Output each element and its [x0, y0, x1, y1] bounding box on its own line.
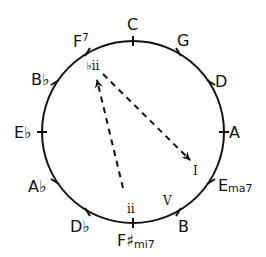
note-a: A: [229, 123, 240, 142]
circle-of-fifths-diagram: C G D A Ema7 B F♯mi7 D♭ A♭ E♭ B♭ F7 ♭ii …: [0, 0, 266, 257]
note-f-sharp-mi7: F♯mi7: [117, 231, 155, 251]
note-a-flat: A♭: [28, 177, 47, 196]
note-c: C: [127, 15, 138, 34]
roman-five: V: [162, 194, 172, 208]
note-f7: F7: [73, 32, 89, 51]
note-d-flat: D♭: [70, 217, 90, 236]
note-d: D: [215, 72, 227, 91]
note-g: G: [177, 31, 189, 50]
tick-marks: [37, 36, 229, 228]
circle: [42, 41, 224, 223]
note-b: B: [178, 217, 189, 236]
roman-two: ii: [127, 202, 135, 216]
arrow-flat-two-to-one: [103, 74, 190, 160]
arrow-two-to-flat-two: [97, 80, 123, 188]
note-b-flat: B♭: [31, 70, 50, 89]
note-e-flat: E♭: [14, 123, 32, 142]
roman-flat-two: ♭ii: [86, 59, 99, 73]
roman-one: I: [193, 164, 198, 178]
note-e-ma7: Ema7: [218, 176, 253, 195]
